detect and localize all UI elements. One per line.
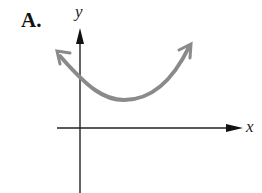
x-axis-arrow-icon: [226, 124, 243, 132]
y-axis-arrow-icon: [76, 28, 84, 44]
y-axis: [76, 28, 84, 193]
x-axis: [57, 124, 243, 132]
parabola-curve: [57, 44, 191, 100]
graph-canvas: [0, 0, 262, 193]
graph-figure: A. y x: [0, 0, 262, 193]
